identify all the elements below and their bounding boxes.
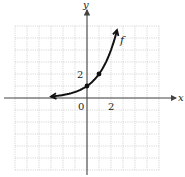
- x-axis-label: x: [178, 92, 184, 103]
- y-tick-label-2: 2: [77, 69, 83, 80]
- y-axis-label: y: [82, 0, 89, 10]
- point-1-2: [97, 72, 102, 77]
- function-label: f: [119, 34, 126, 47]
- origin-label: 0: [78, 101, 84, 112]
- exponential-graph: x y 0 2 2 f: [0, 0, 185, 177]
- point-0-1: [85, 84, 90, 89]
- function-curve: [51, 30, 117, 96]
- x-tick-label-2: 2: [108, 101, 114, 112]
